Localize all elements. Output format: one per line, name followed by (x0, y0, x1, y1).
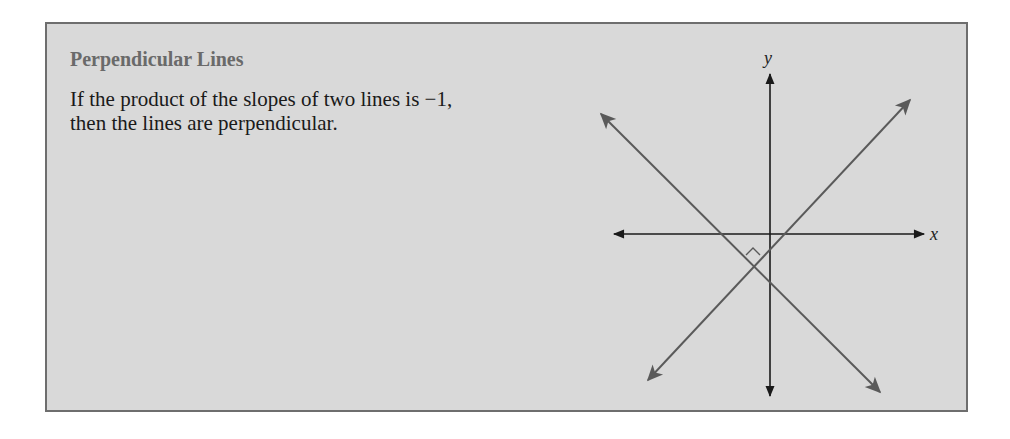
right-angle-marker (746, 248, 760, 255)
x-axis-label: x (929, 224, 938, 244)
positive-slope-line (648, 100, 910, 380)
y-axis-label: y (762, 48, 772, 68)
negative-slope-line (601, 114, 880, 392)
coordinate-diagram: x y (0, 0, 1010, 439)
